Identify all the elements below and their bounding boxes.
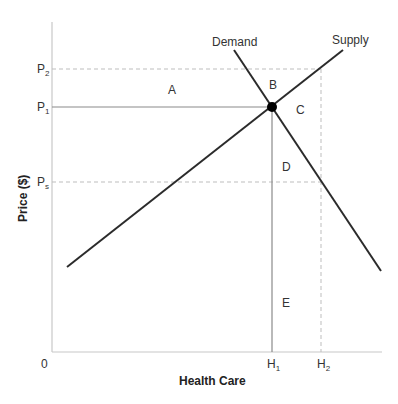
h2-label: H2	[317, 357, 331, 373]
p1-label: P1	[37, 100, 50, 116]
area-b-label: B	[269, 78, 277, 92]
p2-label: P2	[37, 62, 50, 78]
area-a-label: A	[168, 83, 176, 97]
demand-curve	[234, 50, 381, 271]
x-axis-title: Health Care	[179, 374, 246, 388]
y-axis-title: Price ($)	[16, 175, 30, 222]
area-c-label: C	[296, 103, 305, 117]
supply-label: Supply	[332, 33, 369, 47]
origin-label: 0	[41, 357, 48, 371]
supply-demand-chart: Demand Supply P2 P1 Ps H1 H2 0 A B C D E…	[0, 0, 398, 404]
h1-label: H1	[267, 357, 281, 373]
ps-label: Ps	[37, 175, 49, 191]
demand-label: Demand	[212, 35, 257, 49]
equilibrium-point	[267, 102, 277, 112]
supply-curve	[67, 50, 343, 267]
area-d-label: D	[282, 160, 291, 174]
area-e-label: E	[282, 296, 290, 310]
